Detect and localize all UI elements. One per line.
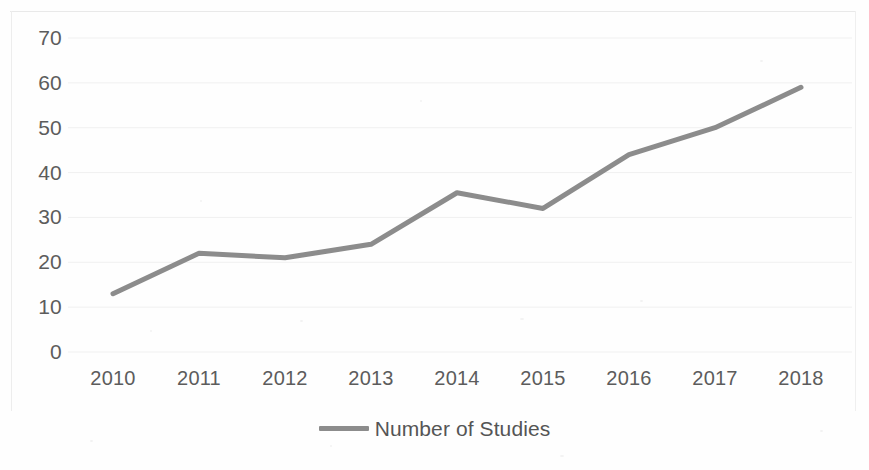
y-axis-tick-label: 40 xyxy=(6,162,62,183)
x-axis-tick-label: 2010 xyxy=(70,368,156,388)
line-chart-figure: 706050403020100 201020112012201320142015… xyxy=(0,0,869,470)
x-axis-tick-label: 2014 xyxy=(414,368,500,388)
y-axis-tick-label: 10 xyxy=(6,296,62,317)
scan-artifact xyxy=(520,318,524,320)
x-axis-tick-label: 2013 xyxy=(328,368,414,388)
y-axis-tick-label: 50 xyxy=(6,117,62,138)
legend-label: Number of Studies xyxy=(375,418,551,439)
scan-artifact xyxy=(200,200,202,202)
y-axis-tick-label: 60 xyxy=(6,72,62,93)
scan-artifact xyxy=(330,445,332,447)
scan-artifact xyxy=(640,300,643,302)
y-axis-tick-label: 0 xyxy=(6,341,62,362)
y-axis-tick-label: 30 xyxy=(6,206,62,227)
y-axis-tick-label: 70 xyxy=(6,27,62,48)
plot-area xyxy=(0,0,869,470)
scan-artifact xyxy=(90,440,93,442)
x-axis-tick-label: 2017 xyxy=(672,368,758,388)
scan-artifact xyxy=(420,100,422,102)
scan-artifact xyxy=(820,430,823,432)
x-axis-tick-label: 2016 xyxy=(586,368,672,388)
x-axis-tick-label: 2018 xyxy=(758,368,844,388)
x-axis-tick-label: 2015 xyxy=(500,368,586,388)
x-axis-tick-label: 2012 xyxy=(242,368,328,388)
legend-line-swatch xyxy=(319,426,369,431)
scan-artifact xyxy=(700,380,703,382)
scan-artifact xyxy=(300,320,303,322)
x-axis-tick-label: 2011 xyxy=(156,368,242,388)
y-axis-tick-label: 20 xyxy=(6,251,62,272)
chart-legend: Number of Studies xyxy=(0,418,869,439)
scan-artifact xyxy=(150,330,152,332)
scan-artifact xyxy=(560,455,564,457)
scan-artifact xyxy=(760,60,763,62)
